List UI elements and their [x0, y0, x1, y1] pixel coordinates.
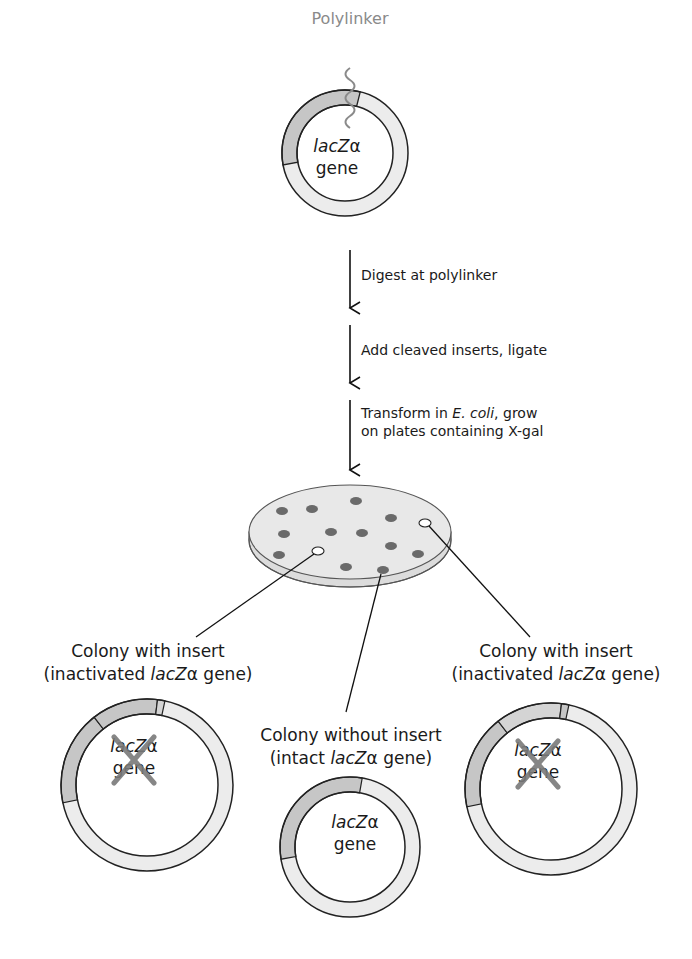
- caption-title: Colony with insert: [71, 641, 225, 661]
- gene-word: gene: [316, 158, 358, 178]
- vector-plasmid: Polylinker lacZα gene: [282, 9, 408, 216]
- blue-colony: [350, 497, 362, 505]
- gene-word: gene: [334, 834, 376, 854]
- outcome-right-caption: Colony with insert (inactivated lacZα ge…: [452, 641, 661, 684]
- caption-sub: (inactivated lacZα gene): [452, 664, 661, 684]
- blue-colony: [385, 514, 397, 522]
- connector-left: [196, 554, 314, 637]
- plasmid-middle-intact: lacZα gene: [280, 777, 420, 917]
- blue-colony: [385, 542, 397, 550]
- blue-colony: [325, 528, 337, 536]
- plasmid-right-recombinant: lacZα gene: [465, 703, 637, 875]
- blue-colony: [356, 529, 368, 537]
- gene-label: lacZα: [313, 136, 360, 156]
- cloning-diagram: Polylinker lacZα gene Digest at polylink…: [0, 0, 692, 959]
- outcome-middle-caption: Colony without insert (intact lacZα gene…: [260, 725, 442, 768]
- blue-colony: [273, 551, 285, 559]
- blue-colony: [278, 530, 290, 538]
- step-2: Add cleaved inserts, ligate: [350, 325, 547, 383]
- step-2-label: Add cleaved inserts, ligate: [361, 342, 547, 358]
- caption-title: Colony with insert: [479, 641, 633, 661]
- connector-middle: [346, 574, 381, 712]
- step-3-label-line2: on plates containing X-gal: [361, 423, 543, 439]
- blue-colony: [377, 566, 389, 574]
- plasmid-left-recombinant: lacZα gene: [61, 699, 233, 871]
- step-1-label: Digest at polylinker: [361, 267, 497, 283]
- blue-colony: [306, 505, 318, 513]
- white-colony: [419, 519, 431, 527]
- blue-colony: [276, 507, 288, 515]
- connector-right: [429, 526, 530, 637]
- blue-colony: [412, 550, 424, 558]
- polylinker-label: Polylinker: [312, 9, 389, 28]
- caption-title: Colony without insert: [260, 725, 442, 745]
- outcome-left-caption: Colony with insert (inactivated lacZα ge…: [44, 641, 253, 684]
- agar-plate: [249, 485, 451, 587]
- caption-sub: (intact lacZα gene): [270, 748, 433, 768]
- step-3-label-line1: Transform in E. coli, grow: [360, 405, 537, 421]
- blue-colony: [340, 563, 352, 571]
- gene-label: lacZα: [331, 812, 378, 832]
- step-3: Transform in E. coli, grow on plates con…: [350, 400, 543, 470]
- step-1: Digest at polylinker: [350, 250, 497, 308]
- caption-sub: (inactivated lacZα gene): [44, 664, 253, 684]
